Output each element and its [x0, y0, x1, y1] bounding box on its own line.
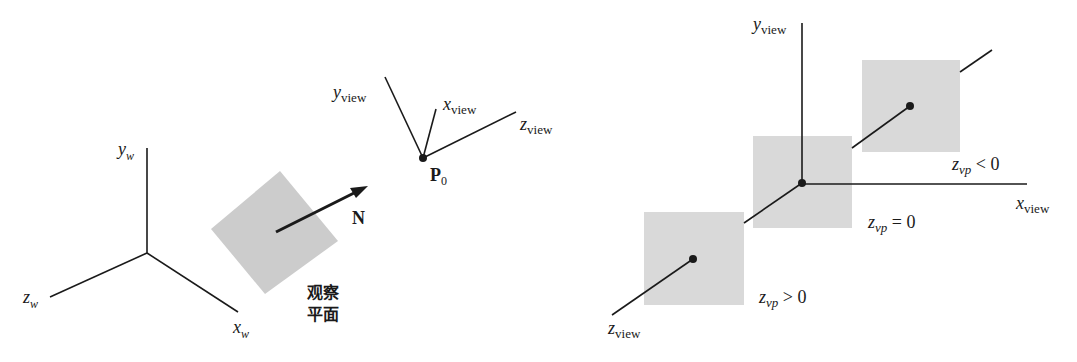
x-view-label: xview — [1015, 193, 1050, 216]
view-y-label: yview — [331, 82, 367, 105]
z-view-label: zview — [607, 318, 641, 341]
normal-label: N — [352, 208, 365, 228]
world-z-label: zw — [22, 287, 38, 311]
origin-point — [798, 179, 806, 187]
world-axes — [50, 148, 238, 312]
view-x-label: xview — [442, 94, 477, 117]
arrowhead-icon — [350, 186, 368, 198]
p0-label: P0 — [430, 165, 447, 188]
world-x-label: xw — [232, 317, 249, 341]
world-x-axis — [147, 253, 238, 312]
view-x-axis — [423, 109, 436, 158]
viewing-coordinates-diagram: yw zw xw N 观察 平面 P0 yview xview zview — [0, 0, 1077, 362]
view-plane — [211, 171, 338, 294]
plane-point-front — [689, 255, 697, 263]
plane-label-zvp-zero: zvp = 0 — [867, 212, 915, 235]
z-axis-segment-end — [960, 50, 992, 72]
view-plane-label-line2: 平面 — [307, 305, 339, 324]
plane-label-zvp-negative: zvp < 0 — [951, 154, 999, 177]
view-z-label: zview — [519, 114, 553, 137]
view-plane-label-line1: 观察 — [307, 283, 340, 302]
y-view-label: yview — [751, 14, 787, 37]
right-diagram: yview xview zview zvp > 0 zvp = 0 zvp < … — [607, 14, 1050, 341]
origin-point-p0 — [419, 154, 427, 162]
plane-point-back — [906, 102, 914, 110]
view-z-axis — [423, 112, 516, 158]
plane-label-zvp-positive: zvp > 0 — [758, 287, 806, 310]
world-z-axis — [50, 253, 147, 297]
view-axes — [385, 77, 516, 158]
world-y-label: yw — [116, 139, 134, 163]
left-diagram: yw zw xw N 观察 平面 P0 yview xview zview — [22, 77, 553, 341]
view-y-axis — [385, 77, 423, 158]
